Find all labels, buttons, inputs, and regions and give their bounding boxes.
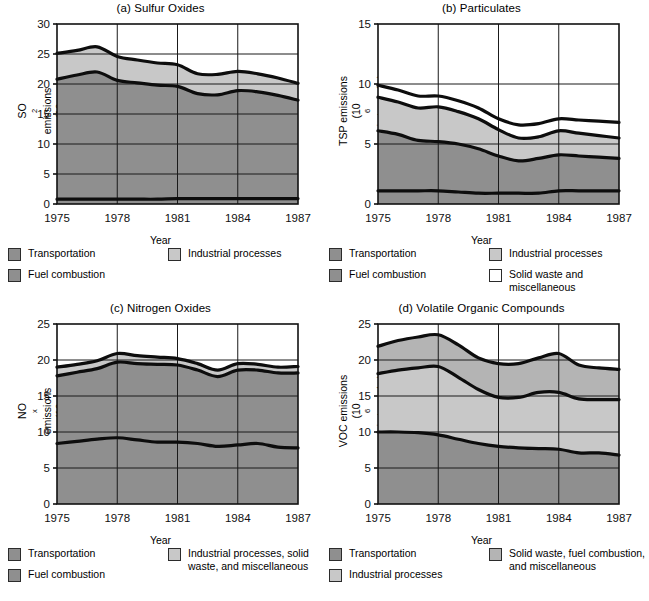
x-axis-label-d: Year (321, 534, 642, 546)
panel-title-a: (a) Sulfur Oxides (0, 2, 321, 14)
svg-text:1981: 1981 (165, 212, 191, 224)
svg-text:0: 0 (44, 198, 50, 210)
plot-area-d: 051015202519751978198119841987 (321, 316, 642, 532)
legend-swatch-icon (8, 248, 21, 261)
legend-label: Industrial processes (509, 247, 602, 260)
legend-label: Industrial processes (188, 247, 281, 260)
panel-volatile-organic-compounds: (d) Volatile Organic Compounds VOC emiss… (321, 300, 642, 600)
legend-swatch-icon (168, 548, 181, 561)
panel-title-d: (d) Volatile Organic Compounds (321, 302, 642, 314)
svg-text:25: 25 (37, 48, 50, 60)
svg-text:5: 5 (44, 462, 50, 474)
legend-swatch-icon (329, 548, 342, 561)
svg-text:1978: 1978 (425, 212, 451, 224)
legend-label: Fuel combustion (28, 568, 105, 581)
legend-swatch-icon (489, 269, 502, 282)
legend-swatch-icon (329, 569, 342, 582)
plot-area-c: 051015202519751978198119841987 (0, 316, 321, 532)
svg-text:0: 0 (44, 498, 50, 510)
legend-label: Fuel combustion (28, 268, 105, 281)
legend-item[interactable]: Industrial processes, solid waste, and m… (168, 547, 318, 572)
legend-swatch-icon (489, 548, 502, 561)
svg-text:25: 25 (358, 318, 371, 330)
svg-text:10: 10 (358, 78, 371, 90)
legend-label: Transportation (349, 547, 416, 560)
svg-text:1978: 1978 (104, 512, 130, 524)
legend-label: Transportation (28, 247, 95, 260)
svg-text:1987: 1987 (285, 512, 311, 524)
legend-item[interactable]: Transportation (8, 547, 158, 561)
legend-swatch-icon (8, 569, 21, 582)
svg-text:1981: 1981 (486, 512, 512, 524)
legend-label: Solid waste and miscellaneous (509, 268, 639, 293)
legend-swatch-icon (8, 548, 21, 561)
svg-text:0: 0 (365, 198, 371, 210)
svg-text:15: 15 (358, 390, 371, 402)
svg-text:20: 20 (358, 354, 371, 366)
legend-swatch-icon (489, 248, 502, 261)
svg-text:1984: 1984 (546, 512, 572, 524)
legend-label: Fuel combustion (349, 268, 426, 281)
legend-item[interactable]: Transportation (329, 247, 479, 261)
legend-swatch-icon (329, 248, 342, 261)
svg-text:1981: 1981 (486, 212, 512, 224)
plot-area-b: 05101519751978198119841987 (321, 16, 642, 232)
svg-text:5: 5 (365, 138, 371, 150)
svg-text:20: 20 (37, 78, 50, 90)
svg-text:1975: 1975 (365, 512, 391, 524)
legend-swatch-icon (168, 248, 181, 261)
svg-text:0: 0 (365, 498, 371, 510)
svg-text:5: 5 (44, 168, 50, 180)
chart-svg-d: 051015202519751978198119841987 (321, 316, 642, 532)
svg-text:1981: 1981 (165, 512, 191, 524)
svg-text:1987: 1987 (285, 212, 311, 224)
legend-item[interactable]: Transportation (329, 547, 479, 561)
svg-text:1975: 1975 (365, 212, 391, 224)
legend-item[interactable]: Industrial processes (329, 568, 479, 582)
x-axis-label-b: Year (321, 234, 642, 246)
chart-svg-b: 05101519751978198119841987 (321, 16, 642, 232)
svg-text:5: 5 (365, 462, 371, 474)
svg-text:1984: 1984 (225, 512, 251, 524)
legend-item[interactable]: Solid waste and miscellaneous (489, 268, 639, 293)
panel-sulfur-oxides: (a) Sulfur Oxides SO2 emissions(106 metr… (0, 0, 321, 300)
legend-item[interactable]: Fuel combustion (329, 268, 479, 282)
panel-title-b: (b) Particulates (321, 2, 642, 14)
legend-label: Transportation (349, 247, 416, 260)
legend-swatch-icon (329, 269, 342, 282)
legend-item[interactable]: Industrial processes (489, 247, 639, 261)
svg-text:10: 10 (358, 426, 371, 438)
chart-svg-c: 051015202519751978198119841987 (0, 316, 321, 532)
legend-item[interactable]: Industrial processes (168, 247, 318, 261)
legend-item[interactable]: Transportation (8, 247, 158, 261)
svg-text:1975: 1975 (44, 512, 70, 524)
panel-nitrogen-oxides: (c) Nitrogen Oxides NOx emissions(106 me… (0, 300, 321, 600)
svg-text:1987: 1987 (606, 212, 632, 224)
legend-swatch-icon (8, 269, 21, 282)
svg-text:1987: 1987 (606, 512, 632, 524)
svg-text:20: 20 (37, 354, 50, 366)
svg-text:10: 10 (37, 138, 50, 150)
legend-item[interactable]: Solid waste, fuel combustion, and miscel… (489, 547, 649, 572)
legend-label: Solid waste, fuel combustion, and miscel… (509, 547, 649, 572)
svg-text:1978: 1978 (104, 212, 130, 224)
x-axis-label-c: Year (0, 534, 321, 546)
svg-text:15: 15 (37, 390, 50, 402)
panel-title-c: (c) Nitrogen Oxides (0, 302, 321, 314)
legend-label: Transportation (28, 547, 95, 560)
svg-text:25: 25 (37, 318, 50, 330)
chart-svg-a: 05101520253019751978198119841987 (0, 16, 321, 232)
svg-text:30: 30 (37, 18, 50, 30)
svg-text:1978: 1978 (425, 512, 451, 524)
svg-text:15: 15 (37, 108, 50, 120)
svg-text:15: 15 (358, 18, 371, 30)
legend-label: Industrial processes, solid waste, and m… (188, 547, 318, 572)
svg-text:10: 10 (37, 426, 50, 438)
x-axis-label-a: Year (0, 234, 321, 246)
legend-item[interactable]: Fuel combustion (8, 568, 158, 582)
svg-text:1984: 1984 (225, 212, 251, 224)
plot-area-a: 05101520253019751978198119841987 (0, 16, 321, 232)
legend-item[interactable]: Fuel combustion (8, 268, 158, 282)
panel-particulates: (b) Particulates TSP emissions(106 metri… (321, 0, 642, 300)
